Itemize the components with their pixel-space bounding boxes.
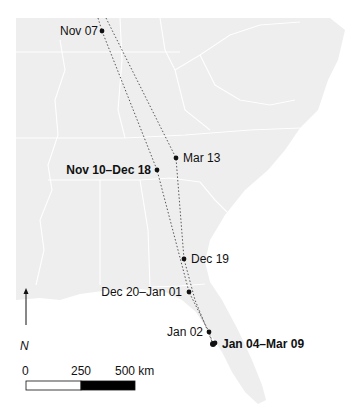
map-canvas	[0, 0, 364, 411]
point-jan02	[207, 330, 212, 335]
label-dec19: Dec 19	[191, 252, 229, 266]
point-nov10-dec18	[155, 168, 160, 173]
scale-tick-0: 0	[22, 364, 29, 378]
scale-segment-black	[81, 381, 135, 390]
point-jan04-mar09-b	[213, 341, 218, 346]
label-nov07: Nov 07	[60, 24, 98, 38]
point-nov07	[100, 29, 105, 34]
label-nov10-dec18: Nov 10–Dec 18	[66, 163, 151, 177]
scale-segment-white	[26, 381, 81, 390]
scale-tick-250: 250	[71, 364, 91, 378]
point-dec19	[182, 257, 187, 262]
label-dec20-jan01: Dec 20–Jan 01	[101, 285, 182, 299]
point-dec20-jan01	[187, 290, 192, 295]
scale-tick-500: 500 km	[115, 364, 154, 378]
scale-bar	[26, 381, 135, 390]
point-mar13	[174, 156, 179, 161]
label-jan02: Jan 02	[167, 325, 203, 339]
north-label: N	[20, 339, 29, 353]
label-jan04-mar09: Jan 04–Mar 09	[222, 337, 304, 351]
label-mar13: Mar 13	[183, 151, 220, 165]
north-arrow-icon	[24, 288, 29, 325]
